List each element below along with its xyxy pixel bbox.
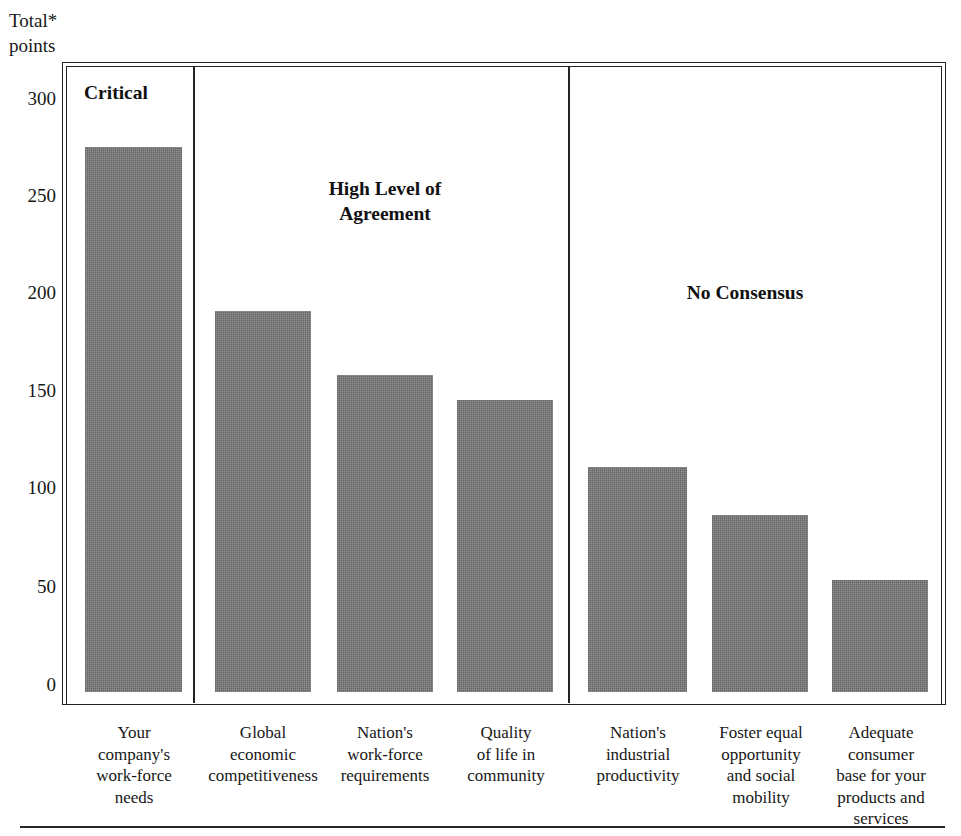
group-heading-high-level-of-agreement: High Level of Agreement [240, 176, 530, 226]
y-axis-tick-labels: 300 250 200 150 100 50 0 [0, 0, 56, 836]
x-label-global-economic-competitiveness: Global economic competitiveness [202, 722, 324, 787]
group-heading-critical: Critical [84, 80, 234, 105]
y-tick-300: 300 [4, 89, 56, 108]
y-tick-100: 100 [4, 478, 56, 497]
y-tick-200: 200 [4, 283, 56, 302]
x-label-your-companys-work-force-needs: Your company's work-force needs [78, 722, 190, 808]
group-divider-2 [568, 67, 570, 703]
y-tick-150: 150 [4, 381, 56, 400]
x-label-nations-work-force-requirements: Nation's work-force requirements [325, 722, 445, 787]
x-label-foster-equal-opportunity: Foster equal opportunity and social mobi… [700, 722, 822, 808]
x-label-adequate-consumer-base: Adequate consumer base for your products… [822, 722, 940, 830]
plot-frame-inner [66, 66, 942, 705]
x-label-quality-of-life-in-community: Quality of life in community [447, 722, 565, 787]
group-heading-no-consensus: No Consensus [620, 280, 870, 305]
group-divider-1 [193, 67, 195, 703]
y-tick-250: 250 [4, 186, 56, 205]
y-tick-50: 50 [4, 577, 56, 596]
x-label-nations-industrial-productivity: Nation's industrial productivity [578, 722, 698, 787]
y-tick-0: 0 [4, 675, 56, 694]
bottom-rule [20, 826, 945, 828]
